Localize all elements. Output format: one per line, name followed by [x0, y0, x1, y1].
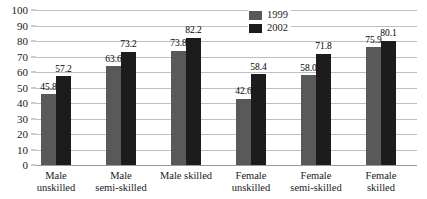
y-axis: 1009080706050403020100 — [0, 0, 36, 175]
gridline — [36, 165, 417, 166]
bar-value-label: 82.2 — [185, 26, 202, 36]
bar-value-label: 63.6 — [105, 55, 122, 65]
bar-group: 58.071.8 — [301, 10, 331, 165]
bar-2002-1 — [121, 52, 136, 165]
y-axis-tick-label: 70 — [17, 51, 28, 62]
y-axis-tick-label: 100 — [12, 5, 29, 16]
bar-value-label: 58.0 — [300, 64, 317, 74]
chart-legend: 1999 2002 — [248, 9, 291, 35]
gridline — [36, 150, 417, 151]
bar-group: 75.980.1 — [366, 10, 396, 165]
bar-2002-3 — [251, 74, 266, 165]
x-axis-category-label: Female unskilled — [232, 170, 271, 194]
x-axis-category-label: Female skilled — [366, 170, 397, 194]
gridline — [36, 57, 417, 58]
gridline — [36, 26, 417, 27]
legend-swatch-2002 — [249, 24, 262, 33]
bar-1999-4 — [301, 75, 316, 165]
gridline — [36, 134, 417, 135]
x-axis-category-label: Female semi-skilled — [290, 170, 341, 194]
bar-value-label: 73.2 — [120, 40, 137, 50]
gridline — [36, 103, 417, 104]
y-axis-tick-label: 30 — [17, 113, 28, 124]
bar-1999-5 — [366, 47, 381, 165]
y-axis-tick-label: 40 — [17, 98, 28, 109]
bar-2002-2 — [186, 38, 201, 165]
legend-item-1999: 1999 — [249, 10, 288, 21]
gridline — [36, 88, 417, 89]
y-axis-tick-label: 10 — [17, 144, 28, 155]
x-axis-category-label: Male unskilled — [37, 170, 76, 194]
bar-group: 63.673.2 — [106, 10, 136, 165]
bar-value-label: 58.4 — [250, 63, 267, 73]
bar-group: 45.857.2 — [41, 10, 71, 165]
legend-label-1999: 1999 — [267, 10, 288, 21]
bar-1999-2 — [171, 51, 186, 165]
bar-1999-0 — [41, 94, 56, 165]
bar-2002-5 — [381, 41, 396, 165]
bar-value-label: 45.8 — [40, 83, 57, 93]
bar-value-label: 71.8 — [315, 42, 332, 52]
bar-group: 73.882.2 — [171, 10, 201, 165]
bar-2002-0 — [56, 76, 71, 165]
y-axis-tick-label: 90 — [17, 20, 28, 31]
y-axis-tick-label: 0 — [23, 160, 29, 171]
gridline — [36, 10, 417, 11]
bar-1999-1 — [106, 66, 121, 165]
x-axis-category-label: Male skilled — [160, 170, 212, 182]
legend-swatch-1999 — [249, 11, 262, 20]
y-axis-tick-label: 80 — [17, 36, 28, 47]
gridline — [36, 119, 417, 120]
gridline — [36, 41, 417, 42]
bar-2002-4 — [316, 54, 331, 165]
plot-area: 45.857.263.673.273.882.242.658.458.071.8… — [36, 10, 417, 165]
bar-value-label: 80.1 — [380, 29, 397, 39]
y-axis-tick-label: 50 — [17, 82, 28, 93]
bar-1999-3 — [236, 99, 251, 165]
x-axis-category-label: Male semi-skilled — [95, 170, 146, 194]
bar-value-label: 42.6 — [235, 87, 252, 97]
y-axis-tick-label: 60 — [17, 67, 28, 78]
bar-value-label: 57.2 — [55, 65, 72, 75]
gridline — [36, 72, 417, 73]
y-axis-tick-label: 20 — [17, 129, 28, 140]
legend-item-2002: 2002 — [249, 23, 288, 34]
bar-value-label: 73.8 — [170, 39, 187, 49]
legend-label-2002: 2002 — [267, 23, 288, 34]
bar-chart: 1009080706050403020100 45.857.263.673.27… — [0, 0, 427, 199]
